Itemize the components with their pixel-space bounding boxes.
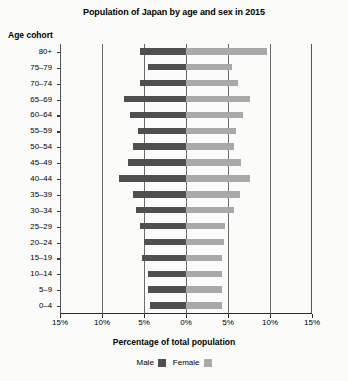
bar-male — [133, 191, 186, 197]
bar-male — [128, 159, 186, 165]
bar-row — [60, 298, 312, 314]
bar-male — [142, 255, 186, 261]
bar-row — [60, 76, 312, 92]
bar-row — [60, 171, 312, 187]
chart-legend: MaleFemale — [0, 358, 348, 367]
x-axis-label: 15% — [52, 318, 68, 327]
x-axis-label: 5% — [222, 318, 234, 327]
bar-male — [119, 175, 186, 181]
bar-male — [148, 64, 186, 70]
bar-row — [60, 108, 312, 124]
legend-item-male[interactable]: Male — [136, 358, 165, 367]
y-axis-tick-labels: 80+75–7970–7465–6960–6455–5950–5445–4940… — [0, 44, 56, 314]
bar-female — [186, 143, 234, 149]
legend-item-female[interactable]: Female — [173, 358, 212, 367]
bar-row — [60, 266, 312, 282]
bar-male — [148, 271, 186, 277]
x-axis-title: Percentage of total population — [0, 337, 348, 347]
bar-row — [60, 60, 312, 76]
legend-label: Female — [173, 358, 200, 367]
bar-male — [136, 207, 186, 213]
bar-female — [186, 207, 234, 213]
bar-row — [60, 187, 312, 203]
bar-row — [60, 282, 312, 298]
x-axis-tick-labels: 15%10%5%0%5%10%15% — [0, 318, 348, 332]
bar-male — [124, 96, 186, 102]
bar-female — [186, 128, 236, 134]
bar-female — [186, 159, 241, 165]
x-axis-label: 10% — [94, 318, 110, 327]
bar-female — [186, 271, 222, 277]
bar-female — [186, 64, 232, 70]
bar-female — [186, 112, 243, 118]
y-axis-label: 60–64 — [30, 111, 52, 119]
x-axis-label: 5% — [138, 318, 150, 327]
x-axis-label: 0% — [180, 318, 192, 327]
bar-row — [60, 235, 312, 251]
bar-male — [140, 223, 186, 229]
bar-row — [60, 155, 312, 171]
y-axis-label: 55–59 — [30, 127, 52, 135]
x-axis-label: 15% — [304, 318, 320, 327]
y-axis-label: 75–79 — [30, 64, 52, 72]
bar-row — [60, 92, 312, 108]
plot-area — [60, 44, 312, 314]
bar-row — [60, 203, 312, 219]
bar-male — [140, 48, 186, 54]
population-pyramid-chart: Population of Japan by age and sex in 20… — [0, 0, 348, 381]
y-axis-label: 35–39 — [30, 191, 52, 199]
bar-row — [60, 123, 312, 139]
chart-title: Population of Japan by age and sex in 20… — [0, 7, 348, 17]
bar-male — [148, 286, 186, 292]
y-axis-label: 45–49 — [30, 159, 52, 167]
y-axis-title: Age cohort — [8, 30, 53, 40]
bar-female — [186, 302, 222, 308]
y-axis-label: 25–29 — [30, 223, 52, 231]
bar-rows — [60, 44, 312, 314]
y-axis-label: 80+ — [39, 48, 52, 56]
y-axis-label: 20–24 — [30, 239, 52, 247]
legend-label: Male — [136, 358, 153, 367]
bar-row — [60, 250, 312, 266]
bar-female — [186, 96, 250, 102]
bar-row — [60, 219, 312, 235]
bar-female — [186, 239, 224, 245]
legend-swatch-female — [204, 359, 212, 367]
y-axis-label: 15–19 — [30, 254, 52, 262]
y-axis-label: 30–34 — [30, 207, 52, 215]
y-axis-label: 0–4 — [39, 302, 52, 310]
bar-row — [60, 44, 312, 60]
y-axis-label: 70–74 — [30, 80, 52, 88]
y-axis-label: 50–54 — [30, 143, 52, 151]
bar-row — [60, 139, 312, 155]
bar-male — [133, 143, 186, 149]
bar-female — [186, 48, 267, 54]
bar-female — [186, 191, 240, 197]
y-axis-label: 65–69 — [30, 96, 52, 104]
bar-male — [144, 239, 186, 245]
bar-female — [186, 255, 222, 261]
bar-female — [186, 80, 238, 86]
y-axis-label: 10–14 — [30, 270, 52, 278]
y-axis-label: 40–44 — [30, 175, 52, 183]
bar-male — [138, 128, 186, 134]
bar-male — [140, 80, 186, 86]
bar-male — [130, 112, 186, 118]
x-axis-label: 10% — [262, 318, 278, 327]
legend-swatch-male — [158, 359, 166, 367]
bar-female — [186, 175, 250, 181]
y-axis-label: 5–9 — [39, 286, 52, 294]
bar-female — [186, 286, 222, 292]
bar-female — [186, 223, 225, 229]
bar-male — [150, 302, 186, 308]
